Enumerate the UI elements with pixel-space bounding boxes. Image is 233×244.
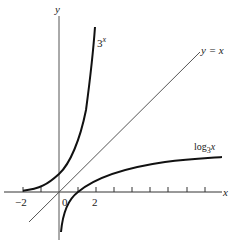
identity-line-label: y = x [201,45,224,56]
graph-canvas [0,0,233,244]
log-curve [61,157,222,232]
x-axis-label: x [223,187,228,198]
exp-curve-label: 3x [97,36,106,49]
exp-exponent: x [103,35,107,44]
log-prefix: log [194,141,207,152]
tick-label-two: 2 [92,197,98,208]
identity-line [29,52,200,222]
log-curve-label: log3x [194,142,215,155]
log-arg: x [211,141,215,152]
y-axis-label: y [55,4,60,15]
x-ticks [23,187,205,192]
tick-label-zero: 0 [62,197,68,208]
tick-label-neg2: −2 [15,197,27,208]
